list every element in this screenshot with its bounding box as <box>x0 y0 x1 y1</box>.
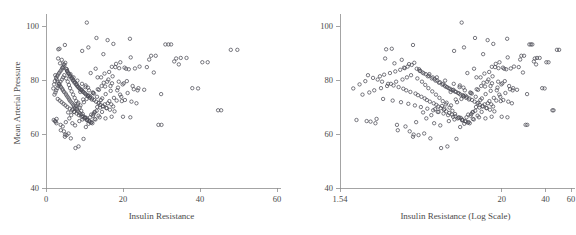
x-tick-label: 20 <box>497 194 506 204</box>
data-point <box>510 102 513 105</box>
data-point <box>391 99 394 102</box>
data-point <box>414 120 417 123</box>
data-point <box>355 118 358 121</box>
data-point <box>358 83 361 86</box>
data-point <box>149 54 152 57</box>
y-tick-label: 100 <box>26 21 39 31</box>
data-point <box>112 96 115 99</box>
data-point <box>509 67 512 70</box>
data-point <box>480 84 483 87</box>
data-point <box>103 72 106 75</box>
data-point <box>100 84 103 87</box>
data-point <box>104 117 107 120</box>
data-point <box>420 95 423 98</box>
data-point <box>102 81 105 84</box>
data-point <box>106 38 109 41</box>
data-point <box>80 49 83 52</box>
data-point <box>381 97 384 100</box>
data-point <box>405 76 408 79</box>
data-point <box>126 91 129 94</box>
data-point <box>405 89 408 92</box>
data-point <box>132 88 135 91</box>
data-point <box>512 65 515 68</box>
x-tick-label: 0 <box>44 194 48 204</box>
data-point <box>52 83 55 86</box>
data-point <box>115 99 118 102</box>
data-point <box>95 95 98 98</box>
data-point <box>68 117 71 120</box>
data-point <box>102 52 105 55</box>
data-point <box>397 85 400 88</box>
data-point <box>133 67 136 70</box>
data-point <box>506 56 509 59</box>
data-point <box>77 145 80 148</box>
data-point <box>447 119 450 122</box>
data-point <box>388 71 391 74</box>
data-point <box>369 120 372 123</box>
scatter-plot-figure: 4060801000204060Insulin ResistanceMean A… <box>0 0 576 235</box>
data-point <box>137 86 140 89</box>
data-point <box>394 70 397 73</box>
data-point <box>82 137 85 140</box>
data-point <box>492 42 495 45</box>
data-point <box>396 129 399 132</box>
data-point <box>547 61 550 64</box>
data-point <box>394 80 397 83</box>
data-point <box>401 78 404 81</box>
data-point <box>425 117 428 120</box>
data-point <box>108 108 111 111</box>
data-point <box>487 70 490 73</box>
data-point <box>94 67 97 70</box>
data-point <box>179 56 182 59</box>
data-point <box>201 61 204 64</box>
data-point <box>383 57 386 60</box>
data-point <box>479 76 482 79</box>
data-point <box>507 84 510 87</box>
data-point <box>434 93 437 96</box>
data-point <box>196 87 199 90</box>
axis-spines <box>46 14 281 188</box>
data-point <box>518 58 521 61</box>
x-tick-label: 40 <box>541 194 550 204</box>
data-point <box>73 96 76 99</box>
data-point <box>145 65 148 68</box>
data-point <box>147 58 150 61</box>
x-axis-ticks: 0204060 <box>44 188 281 204</box>
data-point <box>110 82 113 85</box>
data-point <box>58 62 61 65</box>
y-tick-label: 60 <box>31 129 40 139</box>
data-point <box>89 71 92 74</box>
data-point <box>395 123 398 126</box>
data-point <box>206 61 209 64</box>
data-point <box>63 43 66 46</box>
data-point <box>481 52 484 55</box>
x-tick-label: 20 <box>119 194 128 204</box>
data-point <box>119 61 122 64</box>
data-point <box>409 74 412 77</box>
data-point <box>129 56 132 59</box>
data-point <box>525 92 528 95</box>
data-point <box>480 110 483 113</box>
data-point <box>110 103 113 106</box>
panel-log-scale: 4060801001.54204060Insulin Resistance (L… <box>288 0 576 235</box>
data-point <box>379 86 382 89</box>
data-point <box>84 125 87 128</box>
data-point <box>474 95 477 98</box>
data-point <box>393 62 396 65</box>
data-point <box>419 105 422 108</box>
x-tick-label: 40 <box>196 194 205 204</box>
data-point <box>462 86 465 89</box>
data-point <box>439 124 442 127</box>
data-point <box>446 145 449 148</box>
data-point <box>60 58 63 61</box>
data-point <box>109 89 112 92</box>
data-point <box>103 85 106 88</box>
data-point <box>366 74 369 77</box>
data-point <box>438 96 441 99</box>
data-point <box>104 92 107 95</box>
data-point <box>505 68 508 71</box>
data-point <box>73 124 76 127</box>
data-point <box>80 82 83 85</box>
data-point <box>417 133 420 136</box>
data-point <box>135 102 138 105</box>
